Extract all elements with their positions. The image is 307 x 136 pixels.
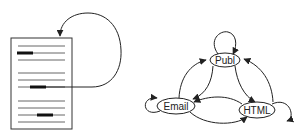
document-page: [11, 38, 72, 129]
edge-publ-to-html: [235, 66, 255, 102]
node-email-label: Email: [163, 101, 188, 112]
edge-email-to-html: [190, 112, 247, 123]
edge-email-to-publ: [179, 60, 206, 98]
node-email: Email: [157, 98, 195, 114]
edge-publ-self-loop: [214, 32, 236, 54]
edge-html-to-publ: [244, 59, 273, 102]
node-publ: Publ: [210, 53, 240, 67]
edge-html-to-email: [194, 97, 242, 104]
node-html-label: HTML: [243, 105, 271, 116]
node-publ-label: Publ: [215, 55, 235, 66]
node-html: HTML: [239, 102, 275, 118]
diagram-canvas: Publ Email HTML: [0, 0, 307, 136]
edge-publ-to-email: [193, 66, 213, 99]
